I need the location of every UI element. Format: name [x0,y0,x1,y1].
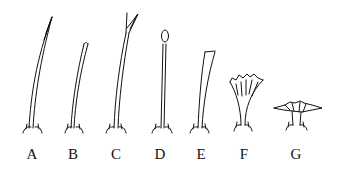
hair-f-drawing [230,74,263,131]
label-f: F [234,146,254,163]
hair-e-drawing [190,51,215,133]
hair-types-figure: A B C D E F G [0,0,342,174]
hair-a-drawing [23,17,52,133]
label-a: A [22,146,42,163]
label-b: B [63,146,83,163]
hair-c-drawing [106,13,138,133]
label-e: E [191,146,211,163]
hair-b-drawing [65,43,88,134]
label-c: C [106,146,126,163]
label-d: D [150,146,170,163]
hair-g-drawing [274,101,322,130]
hair-d-drawing [152,30,172,133]
label-g: G [286,146,306,163]
